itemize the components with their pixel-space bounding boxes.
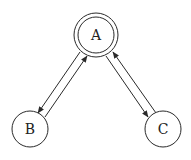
edge-c-to-a bbox=[113, 52, 156, 113]
node-a-label: A bbox=[90, 27, 102, 43]
edges-group bbox=[38, 52, 156, 117]
nodes-group: ABC bbox=[12, 13, 181, 147]
diagram-svg: ABC bbox=[0, 0, 191, 160]
state-diagram: ABC bbox=[0, 0, 191, 160]
edge-a-to-b bbox=[38, 52, 80, 113]
edge-a-to-c bbox=[106, 56, 148, 117]
node-c: C bbox=[145, 111, 181, 147]
node-a: A bbox=[74, 13, 118, 57]
node-b-label: B bbox=[25, 121, 35, 137]
node-b: B bbox=[12, 111, 48, 147]
node-c-label: C bbox=[158, 121, 169, 137]
edge-b-to-a bbox=[45, 56, 87, 117]
